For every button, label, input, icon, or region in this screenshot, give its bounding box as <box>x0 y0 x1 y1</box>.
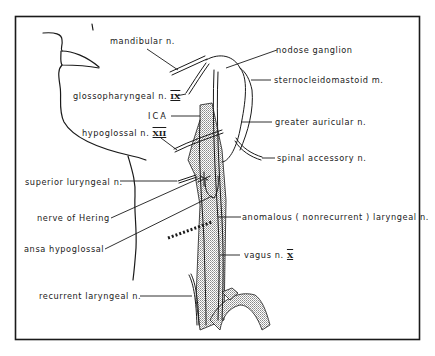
glossopharyngeal-roman: IX <box>170 91 180 101</box>
label-ica: ICA <box>148 111 168 121</box>
vagus-text: vagus n. <box>244 250 284 260</box>
vagus-roman: X <box>287 250 293 260</box>
label-superior-laryngeal-nerve: superior luryngeal n. <box>25 177 123 187</box>
label-sternocleidomastoid: sternocleidomastoid m. <box>274 75 384 85</box>
hypoglossal-roman: XII <box>153 128 167 138</box>
glossopharyngeal-text: glossopharyngeal n. <box>73 91 167 101</box>
label-greater-auricular-nerve: greater auricular n. <box>275 117 366 127</box>
label-recurrent-laryngeal-nerve: recurrent laryngeal n. <box>39 291 141 301</box>
label-ansa-hypoglossal: ansa hypoglossal <box>24 244 104 254</box>
label-spinal-accessory-nerve: spinal accessory n. <box>277 153 366 163</box>
label-mandibular-nerve: mandibular n. <box>110 36 175 46</box>
label-hypoglossal-nerve: hypoglossal n. XII <box>82 128 166 138</box>
face-profile <box>43 24 146 280</box>
label-glossopharyngeal-nerve: glossopharyngeal n. IX <box>73 91 180 101</box>
label-anomalous-laryngeal-nerve: anomalous ( nonrecurrent ) laryngeal n. <box>242 212 429 222</box>
label-vagus-nerve: vagus n. X <box>244 250 293 260</box>
anatomy-figure: mandibular n. nodose ganglion sternoclei… <box>0 0 435 356</box>
hypoglossal-text: hypoglossal n. <box>82 128 149 138</box>
label-nerve-of-hering: nerve of Hering <box>37 213 110 223</box>
label-nodose-ganglion: nodose ganglion <box>276 45 353 55</box>
